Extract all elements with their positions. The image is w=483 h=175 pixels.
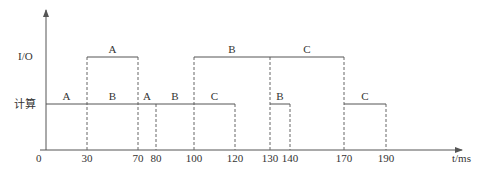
io-segment-label: C	[303, 43, 310, 55]
tick-label: 30	[82, 152, 94, 164]
tick-labels: 307080100120130140170190	[82, 152, 395, 164]
tick-label: 70	[133, 152, 145, 164]
tick-label: 170	[336, 152, 353, 164]
row-label-compute: 计算	[14, 97, 36, 110]
compute-segment-label: B	[109, 90, 116, 102]
tick-label: 190	[378, 152, 395, 164]
compute-segment-label: A	[143, 90, 151, 102]
tick-label: 140	[282, 152, 299, 164]
tick-label: 100	[186, 152, 203, 164]
origin-label: 0	[36, 152, 42, 164]
tick-label: 80	[151, 152, 163, 164]
io-segment-label: A	[109, 43, 117, 55]
compute-row-segments: ABABCBC	[46, 90, 386, 104]
timing-diagram: 0 t/ms I/O 计算 307080100120130140170190 A…	[0, 0, 483, 175]
compute-segment-label: B	[276, 90, 283, 102]
compute-segment-label: C	[211, 90, 218, 102]
compute-segment-label: A	[63, 90, 71, 102]
x-unit-label: t/ms	[452, 152, 471, 164]
io-segment-label: B	[228, 43, 235, 55]
tick-label: 130	[262, 152, 279, 164]
io-row-segments: ABC	[87, 43, 344, 57]
row-label-io: I/O	[18, 50, 33, 62]
compute-segment-label: B	[171, 90, 178, 102]
compute-segment-label: C	[361, 90, 368, 102]
tick-label: 120	[227, 152, 244, 164]
